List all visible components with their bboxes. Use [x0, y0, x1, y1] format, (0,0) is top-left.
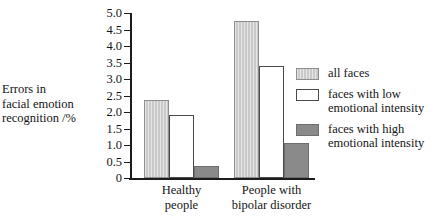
y-axis-tick-label: 3.0	[106, 73, 122, 86]
legend-label: faces with highemotional intensity	[328, 122, 424, 151]
x-axis-category-label-line: People with	[204, 183, 339, 198]
legend-swatch	[296, 68, 319, 80]
legend-label-line: faces with high	[328, 122, 424, 137]
y-axis-tick-label: 5.0	[106, 7, 122, 20]
y-axis-tick-label: 3.5	[106, 56, 122, 69]
y-axis-tick-mark	[124, 63, 130, 64]
legend: all facesfaces with lowemotional intensi…	[296, 66, 436, 157]
bar	[194, 166, 219, 178]
bar-chart: Errors infacial emotionrecognition /% 5.…	[0, 0, 437, 222]
legend-item: faces with lowemotional intensity	[296, 87, 436, 116]
y-axis-tick-label: 4.0	[106, 40, 122, 53]
bar-group	[144, 13, 219, 178]
y-axis-tick-mark	[124, 96, 130, 97]
y-axis-title-line: facial emotion	[2, 97, 102, 112]
y-axis-tick-label: 4.5	[106, 23, 122, 36]
bar	[169, 115, 194, 178]
y-axis-tick-mark	[124, 129, 130, 130]
legend-label: all faces	[328, 66, 369, 81]
bar	[259, 66, 284, 178]
y-axis-line	[130, 13, 132, 179]
y-axis-tick-label: 0.5	[106, 155, 122, 168]
legend-label: faces with lowemotional intensity	[328, 87, 424, 116]
y-axis-tick-label: 2.0	[106, 106, 122, 119]
legend-item: faces with highemotional intensity	[296, 122, 436, 151]
y-axis-tick-mark	[124, 13, 130, 14]
legend-item: all faces	[296, 66, 436, 81]
legend-label-line: emotional intensity	[328, 101, 424, 116]
x-axis-category-label: People withbipolar disorder	[204, 183, 339, 213]
plot-area: 5.04.54.03.53.02.52.01.51.00.50 Healthyp…	[130, 13, 285, 178]
y-axis-tick-mark	[124, 46, 130, 47]
y-axis-title-line: Errors in	[2, 82, 102, 97]
y-axis-tick-mark	[124, 112, 130, 113]
y-axis-tick-label: 1.5	[106, 122, 122, 135]
y-axis-tick-mark	[124, 162, 130, 163]
legend-swatch	[296, 124, 319, 136]
legend-label-line: all faces	[328, 66, 369, 81]
legend-swatch	[296, 89, 319, 101]
y-axis-tick-mark	[124, 145, 130, 146]
x-axis-category-label-line: bipolar disorder	[204, 198, 339, 213]
y-axis-tick-mark	[124, 79, 130, 80]
y-axis-tick-mark	[124, 178, 130, 179]
x-axis-line	[129, 178, 315, 180]
bar	[234, 21, 259, 178]
y-axis-tick-mark	[124, 30, 130, 31]
y-axis-tick-label: 2.5	[106, 89, 122, 102]
y-axis-title: Errors infacial emotionrecognition /%	[2, 82, 102, 126]
legend-label-line: emotional intensity	[328, 136, 424, 151]
y-axis-tick-label: 1.0	[106, 139, 122, 152]
legend-label-line: faces with low	[328, 87, 424, 102]
bar	[144, 100, 169, 178]
y-axis-title-line: recognition /%	[2, 111, 102, 126]
